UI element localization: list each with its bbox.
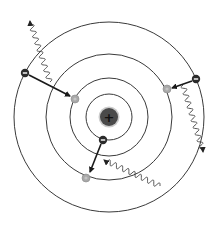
photon-top-left-icon bbox=[30, 21, 52, 82]
electron-empty-core bbox=[165, 87, 168, 90]
photon-waves bbox=[30, 21, 204, 186]
transition-arrow-icon bbox=[172, 81, 192, 88]
minus-icon bbox=[194, 78, 198, 79]
minus-icon bbox=[23, 72, 27, 73]
transition-arrow-icon bbox=[90, 144, 101, 172]
electron-empty-core bbox=[84, 176, 87, 179]
minus-icon bbox=[101, 139, 105, 140]
transition-arrow-icon bbox=[29, 75, 70, 96]
electron-empty-core bbox=[73, 97, 76, 100]
photon-right-icon bbox=[181, 85, 203, 152]
bohr-atom-diagram: + bbox=[0, 0, 221, 225]
nucleus: + bbox=[99, 107, 120, 128]
plus-icon: + bbox=[104, 110, 115, 125]
